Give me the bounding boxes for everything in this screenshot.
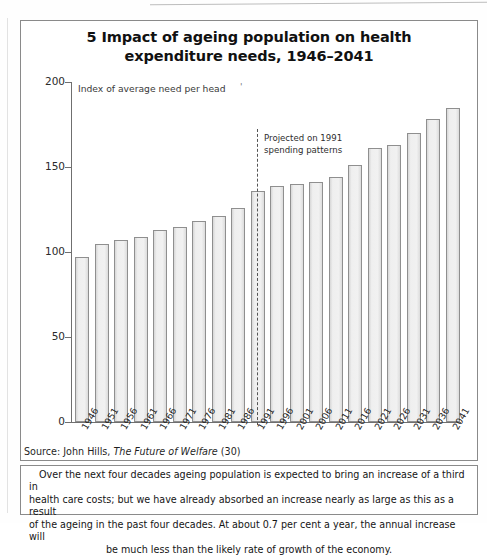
bar [426, 119, 440, 422]
source-line: Source: John Hills, The Future of Welfar… [24, 446, 241, 457]
bar [114, 240, 128, 422]
bar [173, 227, 187, 423]
bar [446, 108, 460, 423]
figure-container: 5 Impact of ageing population on health … [20, 20, 478, 461]
bar [387, 145, 401, 422]
source-title: The Future of Welfare [113, 446, 217, 457]
bar [309, 182, 323, 422]
plot-area: 050100150200 Projected on 1991 spending … [21, 21, 479, 462]
bar [153, 230, 167, 422]
y-axis-tick-label: 200 [25, 75, 65, 87]
caption-line-1: Over the next four decades ageing popula… [29, 469, 469, 494]
bar [329, 177, 343, 422]
caption-line-4: be much less than the likely rate of gro… [29, 544, 469, 556]
bar [75, 257, 89, 422]
y-axis-tick-label: 50 [25, 330, 65, 342]
projection-divider-line [257, 129, 258, 425]
bar [290, 184, 304, 422]
bar [192, 221, 206, 422]
y-axis-tick-label: 150 [25, 160, 65, 172]
y-axis-tick [65, 422, 72, 423]
y-axis-tick-label: 0 [25, 415, 65, 427]
caption-text: Over the next four decades ageing popula… [29, 469, 469, 556]
bar [407, 133, 421, 422]
bar [368, 148, 382, 422]
scan-edge-left [7, 18, 8, 513]
y-axis-tick-label: 100 [25, 245, 65, 257]
bar [231, 208, 245, 422]
bar [212, 216, 226, 422]
bar [134, 237, 148, 422]
projection-annotation: Projected on 1991 spending patterns [264, 133, 342, 156]
caption-line-2: health care costs; but we have already a… [29, 494, 469, 519]
source-suffix: (30) [218, 446, 241, 457]
caption-box: Over the next four decades ageing popula… [20, 465, 478, 515]
bar [270, 186, 284, 422]
bar [95, 244, 109, 423]
caption-line-3: of the ageing in the past four decades. … [29, 519, 469, 544]
source-prefix: Source: John Hills, [24, 446, 113, 457]
bar [348, 165, 362, 422]
